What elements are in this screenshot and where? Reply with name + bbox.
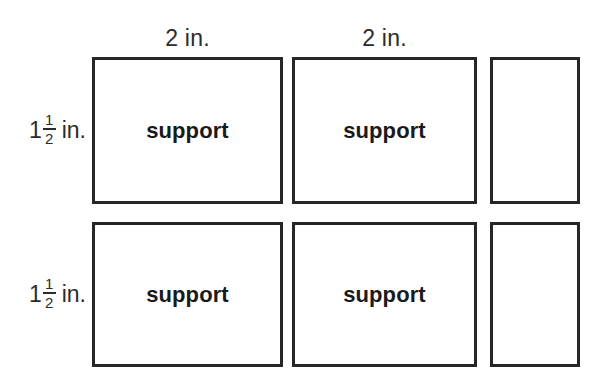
rectangle-row1-col2: support <box>292 57 477 204</box>
diagram-canvas: 2 in. 2 in. 112in. 112in. support suppor… <box>0 0 606 386</box>
row-label-1-numerator: 1 <box>44 112 54 127</box>
row-label-1-fraction: 12 <box>43 112 56 147</box>
row-label-2: 112in. <box>8 274 86 314</box>
row-label-1-whole: 1 <box>29 119 42 142</box>
row-label-2-whole: 1 <box>29 283 42 306</box>
row-label-2-numerator: 1 <box>44 276 54 291</box>
row-label-1: 112in. <box>8 110 86 150</box>
row-label-2-fraction: 12 <box>43 276 56 311</box>
row-label-1-denominator: 2 <box>44 131 54 146</box>
column-label-1: 2 in. <box>92 24 283 52</box>
rectangle-row2-col1-label: support <box>146 282 229 308</box>
row-label-2-denominator: 2 <box>44 295 54 310</box>
rectangle-row2-col3 <box>490 222 580 367</box>
rectangle-row2-col1: support <box>92 222 283 367</box>
row-label-1-unit: in. <box>62 119 86 142</box>
rectangle-row1-col2-label: support <box>343 118 426 144</box>
rectangle-row2-col2: support <box>292 222 477 367</box>
column-label-2: 2 in. <box>292 24 477 52</box>
rectangle-row1-col3 <box>490 57 580 204</box>
rectangle-row1-col1-label: support <box>146 118 229 144</box>
rectangle-row2-col2-label: support <box>343 282 426 308</box>
row-label-2-unit: in. <box>62 283 86 306</box>
rectangle-row1-col1: support <box>92 57 283 204</box>
